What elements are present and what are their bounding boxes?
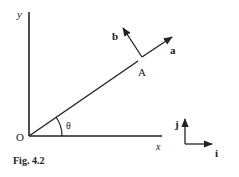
vector-a-arrow xyxy=(142,37,172,57)
x-axis-label: x xyxy=(155,141,161,152)
y-axis-label: y xyxy=(16,8,22,20)
figure-diagram: y x O θ A a b j i Fig. 4.2 xyxy=(0,0,239,177)
angle-arc xyxy=(56,117,62,136)
line-OA xyxy=(29,61,138,136)
figure-caption: Fig. 4.2 xyxy=(13,155,44,166)
point-A-label: A xyxy=(138,66,146,78)
basis-j-label: j xyxy=(174,118,179,130)
vector-b-arrow xyxy=(123,28,142,57)
vector-a-label: a xyxy=(170,44,176,56)
basis-i-label: i xyxy=(215,147,218,159)
angle-label: θ xyxy=(66,120,71,131)
origin-label: O xyxy=(16,131,24,143)
vector-b-label: b xyxy=(112,30,118,42)
